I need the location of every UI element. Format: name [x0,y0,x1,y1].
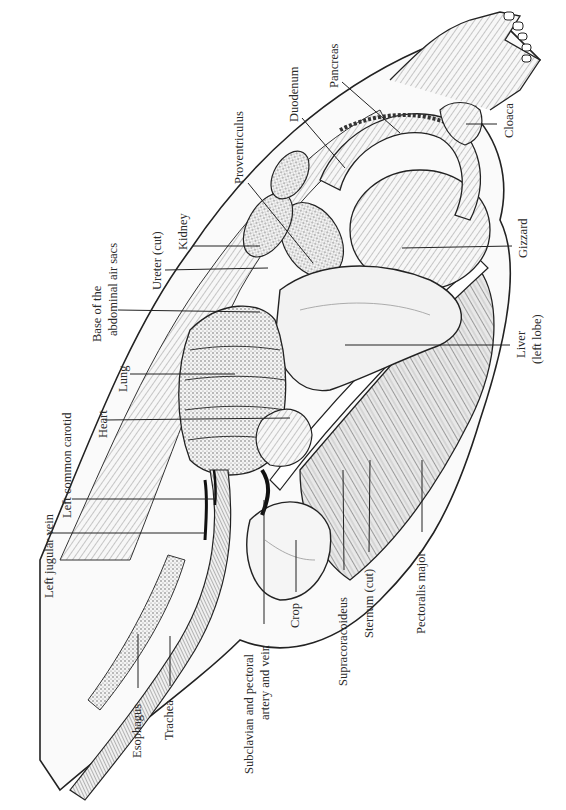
label-subclavian-line1: Subclavian and pectoral [242,654,256,774]
left-jugular-vein-vessel [205,480,207,540]
label-left-jugular-vein: Left jugular vein [42,514,56,598]
label-lung: Lung [116,366,130,392]
label-supracoracoideus: Supracoracoideus [336,597,350,686]
label-base-abdominal-air-sacs-line2: abdominal air sacs [106,243,120,336]
label-base-abdominal-air-sacs-line1: Base of the [90,286,104,342]
label-sternum-cut: Sternum (cut) [362,569,376,638]
anatomical-illustration [0,0,566,810]
label-heart: Heart [96,410,110,438]
label-trachea: Trachea [162,700,176,740]
label-ureter-cut: Ureter (cut) [150,231,164,290]
label-left-common-carotid: Left common carotid [60,412,74,518]
label-gizzard: Gizzard [516,218,530,258]
label-liver-line1: Liver [514,331,528,358]
label-esophagus: Esophagus [130,704,144,758]
label-liver-line2: (left lobe) [530,314,544,364]
label-cloaca: Cloaca [502,103,516,138]
label-pectoralis-major: Pectoralis major [414,552,428,634]
label-proventriculus: Proventriculus [232,111,246,184]
label-subclavian-line2: artery and vein [258,645,272,720]
label-duodenum: Duodenum [287,66,301,122]
label-crop: Crop [288,603,302,628]
label-pancreas: Pancreas [327,44,341,88]
label-kidney: Kidney [176,213,190,250]
